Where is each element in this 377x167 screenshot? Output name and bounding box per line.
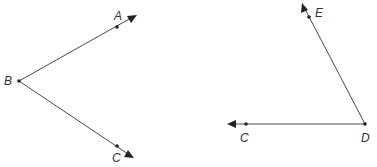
arrowhead-e-icon	[301, 3, 308, 13]
point-b	[17, 79, 21, 83]
ray-de	[305, 9, 365, 124]
ray-ba	[19, 18, 131, 81]
angle-edc-figure: E D C	[227, 3, 370, 145]
point-e	[307, 15, 311, 19]
label-d: D	[361, 131, 370, 145]
ray-bc	[19, 81, 128, 154]
arrowhead-c-icon	[124, 150, 134, 158]
point-c	[115, 144, 119, 148]
label-e: E	[315, 6, 324, 20]
angle-abc-figure: A B C	[4, 9, 137, 165]
label-c: C	[112, 151, 121, 165]
point-a	[115, 25, 119, 29]
arrowhead-c2-icon	[227, 120, 236, 128]
label-a: A	[113, 9, 122, 23]
geometry-diagram: A B C E D C	[0, 0, 377, 167]
point-c2	[244, 122, 248, 126]
label-b: B	[4, 74, 12, 88]
label-c2: C	[240, 131, 249, 145]
point-d	[363, 122, 367, 126]
